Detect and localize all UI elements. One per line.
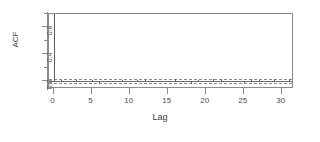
- acf-spike: [114, 81, 115, 82]
- acf-spike: [122, 80, 123, 81]
- acf-spike: [84, 81, 85, 82]
- acf-spike: [282, 81, 283, 82]
- acf-spike: [76, 80, 77, 81]
- x-axis-tick: [53, 88, 54, 94]
- acf-spike: [160, 81, 161, 82]
- acf-spike: [259, 80, 260, 81]
- y-axis-title: ACF: [11, 34, 20, 48]
- acf-spike: [145, 79, 146, 81]
- upper-confidence-band: [49, 79, 292, 80]
- acf-spike: [213, 79, 214, 81]
- acf-spike: [107, 81, 108, 82]
- acf-spike: [267, 81, 268, 82]
- x-axis-tick-label: 25: [233, 96, 253, 105]
- x-axis-tick-label: 15: [157, 96, 177, 105]
- acf-spike: [99, 81, 100, 83]
- lower-confidence-band: [49, 83, 292, 84]
- acf-spike: [152, 81, 153, 82]
- x-axis-tick-label: 0: [43, 96, 63, 105]
- x-axis-tick: [129, 88, 130, 94]
- acf-spike: [206, 81, 207, 82]
- x-axis-title: Lag: [0, 112, 320, 122]
- x-axis-tick: [281, 88, 282, 94]
- acf-spike: [274, 79, 275, 81]
- x-axis-tick-label: 5: [81, 96, 101, 105]
- acf-spike: [175, 79, 176, 81]
- acf-spike: [54, 14, 55, 81]
- acf-spike: [61, 80, 62, 81]
- x-axis-tick-label: 30: [271, 96, 291, 105]
- acf-spike: [137, 80, 138, 81]
- acf-spike: [183, 81, 184, 82]
- x-axis-tick-label: 20: [195, 96, 215, 105]
- acf-spike: [130, 81, 131, 82]
- acf-spike: [69, 81, 70, 82]
- acf-spike: [168, 81, 169, 82]
- acf-spike: [289, 79, 290, 81]
- acf-spike: [221, 79, 222, 81]
- acf-spike: [92, 80, 93, 81]
- acf-spike: [244, 81, 245, 83]
- x-axis-tick: [243, 88, 244, 94]
- plot-area: [48, 13, 293, 88]
- acf-spike: [236, 81, 237, 82]
- x-axis-tick: [91, 88, 92, 94]
- acf-spike: [251, 79, 252, 81]
- zero-line: [49, 81, 292, 82]
- x-axis-tick-label: 10: [119, 96, 139, 105]
- acf-spike: [191, 81, 192, 84]
- acf-spike: [198, 80, 199, 81]
- x-axis-tick: [167, 88, 168, 94]
- x-axis-tick: [205, 88, 206, 94]
- acf-spike: [229, 81, 230, 82]
- acf-plot-figure: ACF 0.00.40.8 051015202530 Lag: [0, 0, 320, 142]
